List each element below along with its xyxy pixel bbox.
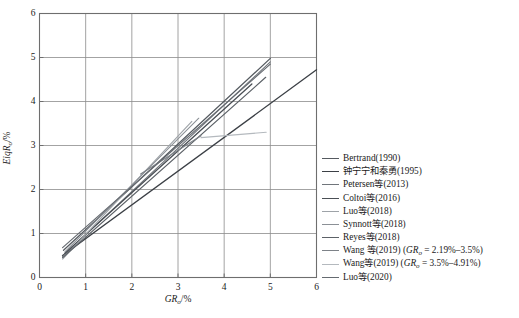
- data-series-line: [64, 58, 271, 250]
- x-tick-label: 3: [176, 283, 181, 293]
- y-tick-label: 6: [27, 9, 36, 19]
- legend-color-swatch: [322, 277, 339, 278]
- legend-item: Synnott等(2018): [322, 218, 518, 231]
- legend-item: 钟宁宁和秦勇(1995): [322, 165, 518, 178]
- legend-item-label: Coltoi等(2016): [343, 194, 400, 203]
- legend-item-label: 钟宁宁和秦勇(1995): [343, 167, 422, 176]
- legend-color-swatch: [322, 158, 339, 159]
- data-series-line: [63, 64, 271, 247]
- y-axis-label: EiqRo/%: [2, 131, 14, 164]
- y-tick-label: 0: [27, 273, 36, 283]
- legend-color-swatch: [322, 198, 339, 199]
- x-tick-label: 0: [37, 283, 42, 293]
- chart-legend: Bertrand(1990)钟宁宁和秦勇(1995)Petersen等(2013…: [322, 152, 518, 284]
- y-tick-label: 2: [27, 185, 36, 195]
- legend-item: Luo等(2018): [322, 205, 518, 218]
- legend-item-label: Synnott等(2018): [343, 220, 406, 229]
- legend-item: Reyes等(2018): [322, 231, 518, 244]
- x-axis-label-main: GR: [165, 294, 178, 304]
- data-series-line: [63, 70, 317, 256]
- y-axis-label-main: EiqR: [2, 146, 12, 165]
- legend-item: Luo等(2020): [322, 271, 518, 284]
- data-series-line: [63, 77, 266, 257]
- chart-figure: 0123456 0123456 GRo/% EiqRo/% Bertrand(1…: [0, 0, 519, 318]
- legend-item: Wang 等(2019) (GRo = 2.19%–3.5%): [322, 244, 518, 257]
- legend-item-label: Wang 等(2019) (GRo = 2.19%–3.5%): [343, 246, 483, 257]
- x-tick-label: 4: [222, 283, 227, 293]
- legend-item-label: Luo等(2020): [343, 273, 392, 282]
- legend-color-swatch: [322, 184, 339, 185]
- legend-color-swatch: [322, 237, 339, 238]
- x-tick-label: 2: [129, 283, 134, 293]
- y-tick-label: 4: [27, 97, 36, 107]
- legend-item-label: Wang等(2019) (GRo = 3.5%–4.91%): [343, 259, 481, 270]
- y-tick-label: 3: [27, 141, 36, 151]
- legend-color-swatch: [322, 250, 339, 251]
- y-tick-label: 5: [27, 53, 36, 63]
- x-tick-label: 6: [314, 283, 319, 293]
- legend-item: Bertrand(1990): [322, 152, 518, 165]
- x-tick-label: 5: [268, 283, 273, 293]
- x-axis-label: GRo/%: [165, 294, 192, 306]
- legend-item-label: Reyes等(2018): [343, 233, 400, 242]
- legend-item-label: Luo等(2018): [343, 207, 392, 216]
- x-axis-label-unit: /%: [181, 294, 192, 304]
- legend-item-label: Bertrand(1990): [343, 154, 400, 163]
- data-series-line: [141, 136, 201, 174]
- data-series-line: [201, 132, 266, 137]
- legend-item-label: Petersen等(2013): [343, 180, 408, 189]
- y-tick-label: 1: [27, 229, 36, 239]
- legend-color-swatch: [322, 211, 339, 212]
- y-axis-label-unit: /%: [2, 131, 12, 142]
- legend-item: Wang等(2019) (GRo = 3.5%–4.91%): [322, 258, 518, 271]
- legend-item: Coltoi等(2016): [322, 192, 518, 205]
- y-axis-label-subscript: o: [6, 142, 14, 146]
- legend-item: Petersen等(2013): [322, 178, 518, 191]
- legend-color-swatch: [322, 264, 339, 265]
- legend-color-swatch: [322, 224, 339, 225]
- legend-color-swatch: [322, 171, 339, 172]
- x-tick-label: 1: [83, 283, 88, 293]
